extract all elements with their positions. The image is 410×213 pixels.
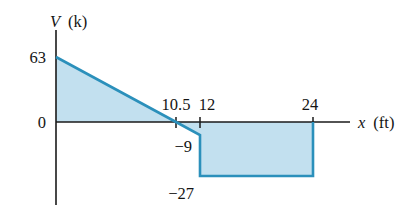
y-axis-symbol: V [50, 12, 62, 31]
x-tick-label-10point5: 10.5 [162, 95, 191, 114]
x-tick-label-24: 24 [302, 95, 319, 114]
shear-diagram-svg: 63 0 10.5 12 24 −9 −27 V (k) x (ft) [0, 0, 410, 213]
v-value-minus-27-label: −27 [168, 184, 194, 203]
v-value-minus-9-label: −9 [174, 137, 192, 156]
x-axis-label: x (ft) [357, 113, 394, 132]
x-tick-label-12: 12 [199, 95, 216, 114]
y-value-63-label: 63 [30, 48, 47, 67]
x-axis-units: (ft) [373, 113, 394, 132]
shear-diagram-figure: 63 0 10.5 12 24 −9 −27 V (k) x (ft) [0, 0, 410, 213]
origin-zero-label: 0 [38, 113, 46, 132]
shear-area-negative-fill [176, 122, 313, 176]
y-axis-label: V (k) [50, 12, 87, 31]
x-axis-symbol: x [357, 113, 366, 132]
y-axis-units: (k) [68, 12, 87, 31]
